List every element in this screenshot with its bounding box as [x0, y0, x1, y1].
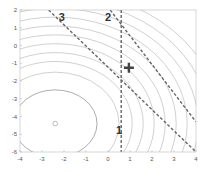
y-tick-label: -5 — [12, 131, 18, 137]
y-tick-label: 0 — [14, 43, 18, 49]
contour-ring — [0, 0, 209, 172]
x-tick-label: 3 — [172, 156, 176, 162]
x-tick-label: -4 — [17, 156, 23, 162]
constraint-label-1: 1 — [116, 124, 122, 136]
plot-frame — [20, 10, 196, 152]
x-tick-label: 1 — [128, 156, 132, 162]
contour-ring — [0, 44, 154, 172]
x-tick-label: 4 — [194, 156, 198, 162]
y-tick-label: -3 — [12, 96, 18, 102]
minimum-circle-marker — [53, 121, 58, 126]
constraint-line-2 — [110, 10, 196, 122]
y-axis-ticks: 210-1-2-3-4-5-6 — [12, 7, 22, 155]
x-tick-label: 2 — [150, 156, 154, 162]
constraint-label-3: 3 — [59, 11, 65, 23]
contour-chart: -4-3-2-101234 210-1-2-3-4-5-6 123 — [0, 0, 210, 172]
optimum-plus-marker — [124, 63, 134, 73]
y-tick-label: 2 — [14, 7, 18, 13]
y-tick-label: -6 — [12, 149, 18, 155]
y-tick-label: -4 — [12, 114, 18, 120]
x-tick-label: 0 — [106, 156, 110, 162]
x-tick-label: -3 — [39, 156, 45, 162]
contour-lines — [0, 0, 210, 172]
contour-ring — [13, 90, 97, 157]
x-tick-label: -2 — [61, 156, 67, 162]
contour-ring — [0, 35, 165, 172]
y-tick-label: 1 — [14, 25, 18, 31]
y-tick-label: -1 — [12, 60, 18, 66]
y-tick-label: -2 — [12, 78, 18, 84]
constraint-label-2: 2 — [105, 11, 111, 23]
x-tick-label: -1 — [83, 156, 89, 162]
